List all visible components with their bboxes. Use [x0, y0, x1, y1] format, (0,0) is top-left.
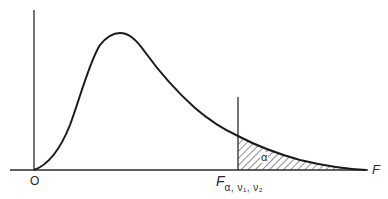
density-curve	[34, 33, 366, 170]
tail-area-label: α	[260, 152, 268, 163]
critical-value-label: Fα, ν₁, ν₂	[216, 174, 263, 188]
critical-value-symbol: F	[216, 173, 225, 189]
origin-label: O	[30, 175, 39, 187]
f-distribution-diagram	[0, 0, 388, 199]
critical-value-subscript: α, ν₁, ν₂	[225, 182, 264, 193]
x-axis-label: F	[372, 163, 380, 176]
shaded-tail-area	[238, 130, 378, 170]
